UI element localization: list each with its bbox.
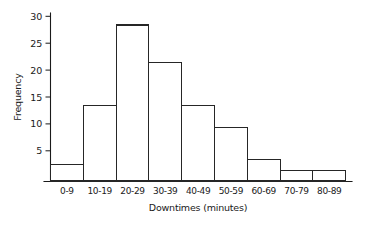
y-tick-label: 5 [36,145,42,156]
y-tick-label: 20 [30,65,42,76]
bar-40-49 [182,106,215,181]
x-tick-label: 20-29 [120,186,145,196]
bar-20-29 [116,25,149,181]
bar-10-19 [83,106,116,181]
chart-canvas: 30 25 20 15 10 5 0-9 10-19 20-29 30-39 4… [0,0,369,225]
x-tick-label: 10-19 [87,186,112,196]
bar-80-89 [313,170,346,181]
y-axis-tick-labels: 30 25 20 15 10 5 [30,11,42,157]
y-tick-label: 10 [30,118,42,129]
bar-60-69 [247,160,280,182]
y-tick-label: 25 [30,38,42,49]
bar-50-59 [215,127,248,181]
bar-0-9 [51,165,84,181]
y-tick-label: 30 [30,11,42,22]
y-axis-title: Frequency [12,73,23,121]
x-axis-title: Downtimes (minutes) [149,202,247,213]
bar-30-39 [149,63,182,181]
y-tick-label: 15 [30,92,42,103]
histogram-figure: 30 25 20 15 10 5 0-9 10-19 20-29 30-39 4… [0,0,369,225]
x-tick-label: 50-59 [219,186,244,196]
x-tick-label: 30-39 [153,186,178,196]
x-tick-label: 0-9 [60,186,74,196]
x-axis-tick-labels: 0-9 10-19 20-29 30-39 40-49 50-59 60-69 … [60,186,342,196]
x-tick-label: 70-79 [284,186,309,196]
bar-70-79 [280,170,313,181]
y-axis-ticks [46,16,51,151]
x-tick-label: 40-49 [186,186,211,196]
x-tick-label: 80-89 [317,186,342,196]
x-tick-label: 60-69 [251,186,276,196]
histogram-bars [51,25,346,181]
